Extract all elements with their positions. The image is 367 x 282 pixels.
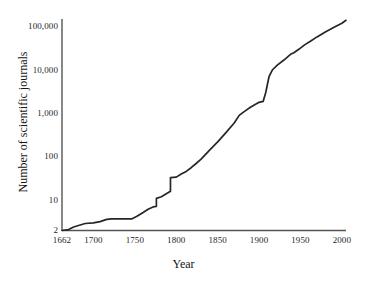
xtick-label-1850: 1850 — [198, 236, 238, 245]
xtick-label-1700: 1700 — [73, 236, 113, 245]
xtick-label-1750: 1750 — [115, 236, 155, 245]
ytick-label-1000: 1,000 — [37, 109, 58, 118]
xtick-label-2000: 2000 — [322, 236, 362, 245]
series-line-journals — [62, 20, 346, 230]
y-axis-title-wrapper: Number of scientific journals — [15, 7, 31, 237]
ytick-label-10: 10 — [49, 196, 58, 205]
ytick-label-100: 100 — [44, 152, 58, 161]
xtick-label-1800: 1800 — [156, 236, 196, 245]
x-axis-title: Year — [0, 257, 367, 271]
xtick-label-1950: 1950 — [280, 236, 320, 245]
chart-figure: 100,000 10,000 1,000 100 10 2 1662 1700 … — [0, 0, 367, 282]
xtick-label-1900: 1900 — [239, 236, 279, 245]
ytick-label-10000: 10,000 — [33, 66, 58, 75]
y-axis-title: Number of scientific journals — [15, 7, 31, 237]
ytick-label-2: 2 — [53, 226, 58, 235]
axis-lines — [62, 19, 346, 231]
data-series-group — [62, 20, 346, 230]
ytick-label-100000: 100,000 — [28, 22, 58, 31]
